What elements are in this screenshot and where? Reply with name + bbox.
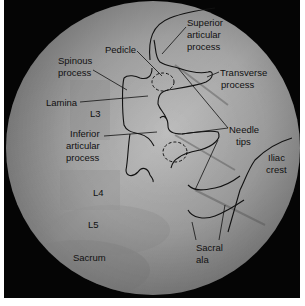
label-spinous-1: Spinous: [58, 55, 93, 66]
label-sacrum: Sacrum: [73, 252, 106, 263]
label-lamina: Lamina: [46, 97, 78, 108]
label-iliac-2: crest: [266, 164, 287, 175]
label-l4: L4: [93, 187, 104, 198]
label-transverse-1: Transverse: [220, 67, 267, 78]
label-spinous-2: process: [58, 67, 92, 78]
label-inferior-2: articular: [66, 140, 100, 151]
label-superior-articular-2: articular: [187, 29, 221, 40]
label-pedicle: Pedicle: [105, 44, 136, 55]
label-needle-2: tips: [236, 136, 251, 147]
label-superior-articular-3: process: [187, 41, 221, 52]
label-superior-articular-1: Superior: [187, 17, 223, 28]
label-iliac-1: Iliac: [268, 152, 285, 163]
label-needle-1: Needle: [229, 124, 259, 135]
label-transverse-2: process: [221, 79, 255, 90]
x-ray-field: [6, 1, 300, 300]
label-sacral-ala-2: ala: [196, 254, 209, 265]
annotated-radiograph: Superior articular process Pedicle Spino…: [0, 0, 305, 306]
label-inferior-1: Inferior: [70, 128, 100, 139]
label-l5: L5: [88, 219, 99, 230]
label-inferior-3: process: [66, 152, 100, 163]
label-sacral-ala-1: Sacral: [196, 242, 223, 253]
label-l3: L3: [90, 108, 101, 119]
